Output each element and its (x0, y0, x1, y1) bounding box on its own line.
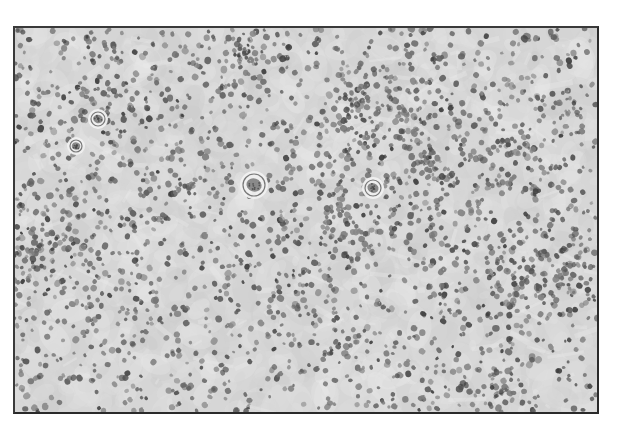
micrograph-image (15, 28, 597, 412)
micrograph-frame (13, 26, 599, 414)
